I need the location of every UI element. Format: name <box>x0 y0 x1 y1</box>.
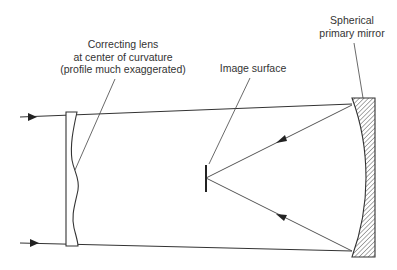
label-image-surface: Image surface <box>218 62 288 75</box>
label-primary-mirror: Spherical primary mirror <box>312 14 392 39</box>
reflected-ray-bottom <box>206 178 352 251</box>
leader-line-correcting-lens <box>75 79 115 170</box>
arrowhead-icon <box>28 113 37 121</box>
label-line: (profile much exaggerated) <box>58 63 188 76</box>
label-line: Correcting lens <box>58 38 188 51</box>
spherical-primary-mirror <box>352 98 375 257</box>
label-line: primary mirror <box>312 27 392 40</box>
label-line: Image surface <box>218 62 288 75</box>
label-line: at center of curvature <box>58 51 188 64</box>
arrowhead-icon <box>30 239 39 247</box>
label-correcting-lens: Correcting lens at center of curvature (… <box>58 38 188 76</box>
leader-line-image-surface <box>209 78 250 164</box>
arrowhead-icon <box>276 214 287 221</box>
leader-line-primary-mirror <box>354 43 363 98</box>
reflected-ray-top <box>206 105 352 178</box>
arrowhead-icon <box>276 135 287 143</box>
correcting-lens <box>66 112 78 246</box>
label-line: Spherical <box>312 14 392 27</box>
